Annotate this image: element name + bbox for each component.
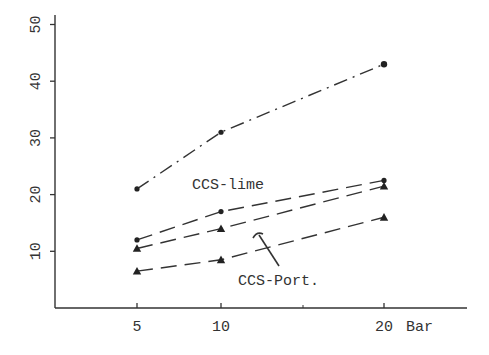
y-tick-label: 30 (28, 129, 45, 147)
y-tick-label: 40 (28, 72, 45, 90)
circle-marker (134, 186, 139, 191)
triangle-marker (380, 182, 388, 190)
series-line (137, 186, 384, 248)
circle-marker (134, 237, 139, 242)
series-line (137, 217, 384, 271)
annotation-ccs-port: CCS-Port. (238, 273, 319, 290)
line-chart: 1020304050 51020Bar CCS-lime CCS-Port. (0, 0, 489, 355)
y-tick-label: 20 (28, 186, 45, 204)
circle-marker (218, 130, 223, 135)
annotation-arrow (253, 233, 279, 266)
x-tick-label: 5 (132, 319, 141, 336)
y-tick-label: 10 (28, 242, 45, 260)
x-unit-label: Bar (406, 319, 433, 336)
annotation-ccs-lime: CCS-lime (192, 177, 264, 194)
y-ticks: 1020304050 (28, 15, 55, 260)
series-line (137, 64, 384, 189)
circle-marker (218, 209, 223, 214)
series-4 (133, 213, 388, 274)
triangle-marker (217, 224, 225, 232)
triangle-marker (380, 213, 388, 221)
x-tick-label: 20 (375, 319, 393, 336)
circle-marker (381, 61, 387, 67)
series-group (133, 61, 388, 275)
x-tick-label: 10 (212, 319, 230, 336)
series-1 (134, 61, 387, 192)
y-tick-label: 50 (28, 15, 45, 33)
axes (55, 15, 467, 308)
